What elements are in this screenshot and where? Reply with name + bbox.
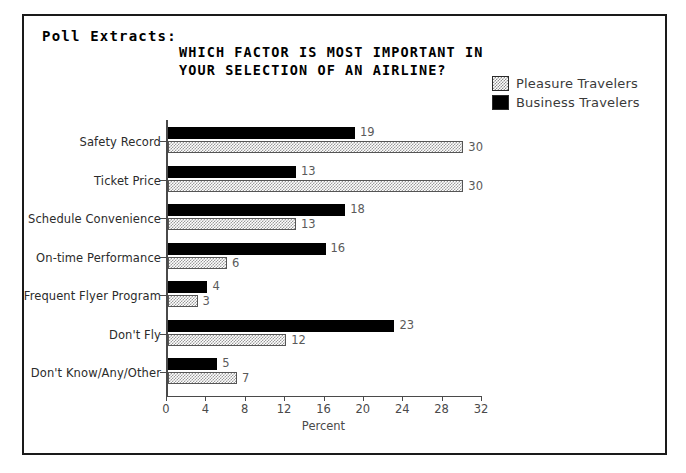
y-axis-tick xyxy=(160,295,166,296)
bar-group-row: Ticket Price1330 xyxy=(24,163,669,199)
bar-group-row: On-time Performance166 xyxy=(24,240,669,276)
x-axis-tick-label: 12 xyxy=(277,402,292,416)
category-label: Safety Record xyxy=(80,135,161,149)
bar-group-row: Frequent Flyer Program43 xyxy=(24,278,669,314)
bar-business-travelers[interactable] xyxy=(168,320,394,332)
bar-business-travelers[interactable] xyxy=(168,166,296,178)
y-axis-tick xyxy=(160,218,166,219)
bar-pleasure-travelers[interactable] xyxy=(168,257,227,269)
x-axis-title: Percent xyxy=(166,419,481,433)
x-axis-tick-label: 0 xyxy=(162,402,169,416)
y-axis-tick xyxy=(160,257,166,258)
category-label: On-time Performance xyxy=(36,251,161,265)
x-axis-tick-label: 8 xyxy=(241,402,248,416)
x-axis-tick-label: 4 xyxy=(202,402,209,416)
y-axis-tick xyxy=(160,180,166,181)
bar-group-row: Don't Know/Any/Other57 xyxy=(24,355,669,391)
bar-value-pleasure: 30 xyxy=(468,179,483,193)
category-label: Ticket Price xyxy=(94,174,161,188)
y-axis-tick xyxy=(160,372,166,373)
y-axis-tick xyxy=(160,141,166,142)
x-axis-tick xyxy=(481,396,482,401)
x-axis-tick-label: 16 xyxy=(316,402,331,416)
poll-extracts-frame: Poll Extracts: WHICH FACTOR IS MOST IMPO… xyxy=(22,14,667,455)
bar-chart-plot-area: Safety Record1930Ticket Price1330Schedul… xyxy=(24,16,669,457)
x-axis-tick xyxy=(363,396,364,401)
bar-group-row: Safety Record1930 xyxy=(24,124,669,160)
bar-pleasure-travelers[interactable] xyxy=(168,180,463,192)
x-axis-tick-label: 24 xyxy=(395,402,410,416)
bar-value-business: 16 xyxy=(331,241,346,255)
category-label: Frequent Flyer Program xyxy=(24,289,161,303)
x-axis-tick xyxy=(284,396,285,401)
bar-pleasure-travelers[interactable] xyxy=(168,372,237,384)
bar-value-pleasure: 3 xyxy=(203,294,210,308)
category-label: Don't Know/Any/Other xyxy=(31,366,161,380)
bar-business-travelers[interactable] xyxy=(168,281,207,293)
bar-value-business: 13 xyxy=(301,164,316,178)
bar-business-travelers[interactable] xyxy=(168,243,326,255)
y-axis-tick xyxy=(160,334,166,335)
bar-value-pleasure: 13 xyxy=(301,217,316,231)
bar-value-business: 5 xyxy=(222,356,229,370)
x-axis-tick xyxy=(205,396,206,401)
x-axis-tick-label: 32 xyxy=(474,402,489,416)
category-label: Don't Fly xyxy=(109,328,161,342)
bar-business-travelers[interactable] xyxy=(168,127,355,139)
bar-value-pleasure: 12 xyxy=(291,333,306,347)
bar-value-business: 19 xyxy=(360,125,375,139)
bar-business-travelers[interactable] xyxy=(168,358,217,370)
bar-value-pleasure: 30 xyxy=(468,140,483,154)
bar-value-business: 4 xyxy=(212,279,219,293)
x-axis-tick-label: 28 xyxy=(434,402,449,416)
bar-group-row: Don't Fly2312 xyxy=(24,317,669,353)
x-axis-tick-label: 20 xyxy=(356,402,371,416)
x-axis-tick xyxy=(324,396,325,401)
x-axis-tick xyxy=(166,396,167,401)
x-axis-tick xyxy=(245,396,246,401)
bar-value-pleasure: 7 xyxy=(242,371,249,385)
bar-pleasure-travelers[interactable] xyxy=(168,218,296,230)
x-axis-tick xyxy=(402,396,403,401)
bar-business-travelers[interactable] xyxy=(168,204,345,216)
category-label: Schedule Convenience xyxy=(28,212,161,226)
x-axis-tick xyxy=(442,396,443,401)
bar-pleasure-travelers[interactable] xyxy=(168,334,286,346)
bar-group-row: Schedule Convenience1813 xyxy=(24,201,669,237)
bar-pleasure-travelers[interactable] xyxy=(168,295,198,307)
bar-value-business: 18 xyxy=(350,202,365,216)
cutoff-text-artifact xyxy=(185,0,515,7)
bar-value-pleasure: 6 xyxy=(232,256,239,270)
bar-pleasure-travelers[interactable] xyxy=(168,141,463,153)
bar-value-business: 23 xyxy=(399,318,414,332)
